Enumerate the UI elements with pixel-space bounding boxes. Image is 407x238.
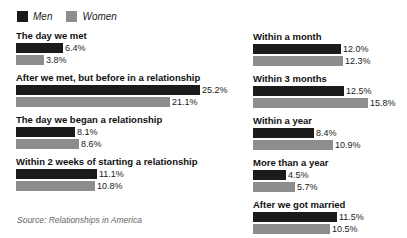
bar-group: After we met, but before in a relationsh…	[16, 72, 253, 107]
women-bar	[253, 140, 333, 150]
bar-group: The day we met6.4%3.8%	[16, 30, 253, 65]
category-label: Within 3 months	[253, 73, 407, 84]
category-label: Within a year	[253, 115, 407, 126]
women-swatch-icon	[66, 11, 77, 22]
women-value-label: 5.7%	[297, 182, 318, 192]
men-bar-row: 11.5%	[253, 212, 407, 222]
women-bar	[16, 139, 79, 149]
bar-group: Within a year8.4%10.9%	[253, 115, 407, 150]
women-bar	[16, 181, 95, 191]
category-label: The day we began a relationship	[16, 114, 253, 125]
women-value-label: 3.8%	[46, 55, 67, 65]
men-value-label: 8.4%	[316, 128, 337, 138]
women-bar-row: 10.8%	[16, 181, 253, 191]
men-bar-row: 8.4%	[253, 128, 407, 138]
category-label: The day we met	[16, 30, 253, 41]
men-value-label: 25.2%	[202, 85, 228, 95]
category-label: Within a month	[253, 31, 407, 42]
bar-group: After we got married11.5%10.5%	[253, 199, 407, 234]
chart-column-right: Within a month12.0%12.3%Within 3 months1…	[253, 31, 407, 238]
bar-group: Within 2 weeks of starting a relationshi…	[16, 156, 253, 191]
chart-column-left: The day we met6.4%3.8%After we met, but …	[16, 30, 253, 198]
women-value-label: 8.6%	[81, 139, 102, 149]
men-bar	[253, 44, 341, 54]
bar-group: Within 3 months12.5%15.8%	[253, 73, 407, 108]
women-bar	[16, 97, 170, 107]
men-bar-row: 12.0%	[253, 44, 407, 54]
men-value-label: 11.1%	[99, 169, 124, 179]
men-value-label: 8.1%	[77, 127, 98, 137]
legend-label-women: Women	[82, 11, 116, 22]
men-bar-row: 25.2%	[16, 85, 253, 95]
men-bar	[253, 86, 344, 96]
women-value-label: 10.8%	[97, 181, 123, 191]
legend-label-men: Men	[33, 11, 52, 22]
women-bar	[16, 55, 44, 65]
women-bar	[253, 98, 368, 108]
men-value-label: 12.5%	[346, 86, 372, 96]
men-bar	[16, 169, 97, 179]
legend-item-men: Men	[17, 11, 52, 22]
women-bar-row: 5.7%	[253, 182, 407, 192]
bar-group: More than a year4.5%5.7%	[253, 157, 407, 192]
women-bar-row: 3.8%	[16, 55, 253, 65]
legend-item-women: Women	[66, 11, 116, 22]
women-value-label: 21.1%	[172, 97, 198, 107]
men-bar-row: 12.5%	[253, 86, 407, 96]
women-bar-row: 21.1%	[16, 97, 253, 107]
men-bar-row: 6.4%	[16, 43, 253, 53]
men-value-label: 4.5%	[288, 170, 309, 180]
women-value-label: 10.9%	[335, 140, 361, 150]
men-bar	[253, 128, 314, 138]
women-bar-row: 8.6%	[16, 139, 253, 149]
category-label: Within 2 weeks of starting a relationshi…	[16, 156, 253, 167]
men-bar-row: 4.5%	[253, 170, 407, 180]
women-value-label: 15.8%	[370, 98, 396, 108]
women-bar-row: 15.8%	[253, 98, 407, 108]
bar-group: Within a month12.0%12.3%	[253, 31, 407, 66]
women-bar-row: 10.5%	[253, 224, 407, 234]
men-bar	[16, 43, 63, 53]
source-note: Source: Relationships in America	[17, 215, 142, 225]
men-bar	[253, 212, 337, 222]
legend: Men Women	[17, 11, 117, 22]
category-label: More than a year	[253, 157, 407, 168]
men-bar	[16, 127, 75, 137]
women-bar-row: 12.3%	[253, 56, 407, 66]
men-bar	[16, 85, 200, 95]
women-value-label: 12.3%	[345, 56, 371, 66]
women-bar	[253, 224, 330, 234]
category-label: After we got married	[253, 199, 407, 210]
men-value-label: 11.5%	[339, 212, 364, 222]
bar-group: The day we began a relationship8.1%8.6%	[16, 114, 253, 149]
women-bar	[253, 182, 295, 192]
category-label: After we met, but before in a relationsh…	[16, 72, 253, 83]
men-bar	[253, 170, 286, 180]
men-value-label: 12.0%	[343, 44, 369, 54]
men-swatch-icon	[17, 11, 28, 22]
women-value-label: 10.5%	[332, 224, 358, 234]
women-bar-row: 10.9%	[253, 140, 407, 150]
women-bar	[253, 56, 343, 66]
men-value-label: 6.4%	[65, 43, 86, 53]
bar-chart: Men Women The day we met6.4%3.8%After we…	[0, 0, 407, 238]
men-bar-row: 8.1%	[16, 127, 253, 137]
men-bar-row: 11.1%	[16, 169, 253, 179]
